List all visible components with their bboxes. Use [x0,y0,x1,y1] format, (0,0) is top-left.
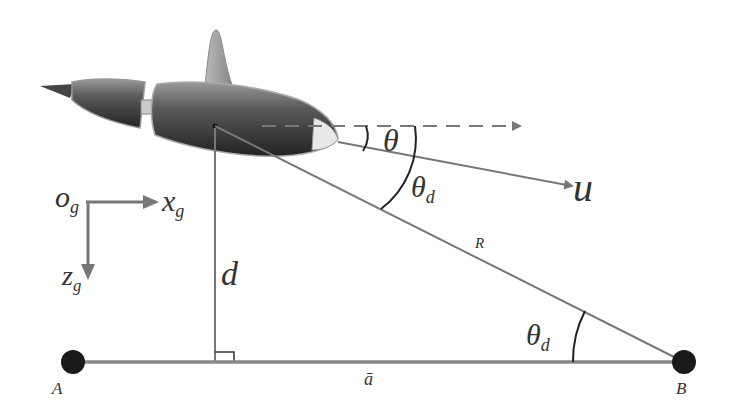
theta-label: θ [383,124,399,156]
point-B-label: B [676,380,686,397]
velocity-vector-u [338,142,572,186]
vehicle-icon [40,30,338,156]
line-of-sight-R [215,126,684,362]
point-B [672,350,696,374]
z-axis-label: zg [62,262,81,295]
theta-d-arc-lower [573,311,585,362]
d-label: d [221,257,238,291]
theta-d-label-lower: θd [526,320,550,354]
diagram-canvas [0,0,736,418]
velocity-u-label: u [573,168,593,208]
R-label: R [475,236,484,251]
origin-label: og [55,182,79,216]
theta-d-label-upper: θd [411,172,435,206]
point-A [61,350,85,374]
x-axis-label: xg [162,186,184,220]
baseline-label: ā [364,370,373,388]
point-A-label: A [52,380,62,397]
